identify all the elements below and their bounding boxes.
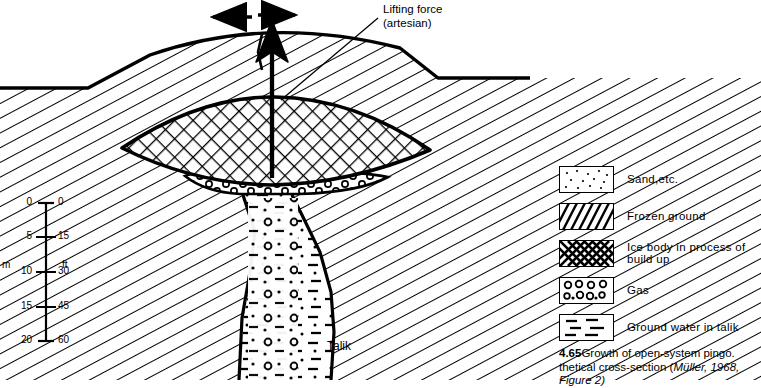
lifting-force-line2: (artesian) — [383, 16, 442, 30]
scale-m-tick-20: 20 — [10, 334, 32, 345]
legend: Sand,etc. Frozen ground — [559, 166, 761, 351]
scale-m-tick-5: 5 — [10, 230, 32, 241]
caption-number: 4.65 — [559, 347, 581, 359]
talik-gas-bubbles — [248, 198, 298, 380]
figure-caption: 4.65Growth of open-system pingo. thetica… — [559, 347, 761, 388]
scale-m-tick-10: 10 — [10, 265, 32, 276]
scale-ft-tick-30: 30 — [58, 265, 82, 276]
caption-source: Müller, 1968, — [673, 361, 739, 373]
scale-m-tick-0: 0 — [10, 196, 32, 207]
legend-label-ice-body: Ice body in process of build up — [627, 241, 761, 265]
diagonal-hatch-swatch — [559, 203, 614, 230]
caption-text-2: thetical cross-section ( — [559, 361, 673, 373]
caption-text-1: Growth of open-system pingo. — [581, 347, 734, 359]
legend-item-ice-body: Ice body in process of build up — [559, 240, 761, 266]
scale-ft-tick-60: 60 — [58, 334, 82, 345]
legend-label-ground-water: Ground water in talik — [627, 321, 739, 333]
legend-label-gas: Gas — [627, 284, 649, 296]
talik-label: Talik — [327, 339, 351, 353]
sand-dots-swatch — [559, 166, 614, 193]
lifting-force-label: Lifting force (artesian) — [383, 2, 442, 30]
legend-item-gas: Gas — [559, 277, 761, 303]
scale-ft-tick-0: 0 — [58, 196, 82, 207]
legend-label-frozen-ground: Frozen ground — [627, 210, 706, 222]
legend-label-sand: Sand,etc. — [627, 173, 678, 185]
legend-item-frozen-ground: Frozen ground — [559, 203, 761, 229]
scale-ft-tick-15: 15 — [58, 230, 82, 241]
dashes-swatch — [559, 314, 614, 341]
cross-hatch-swatch — [559, 240, 614, 267]
scale-m-tick-15: 15 — [10, 300, 32, 311]
circles-swatch — [559, 277, 614, 304]
legend-item-ground-water: Ground water in talik — [559, 314, 761, 340]
lifting-force-line1: Lifting force — [383, 2, 442, 16]
scale-ft-tick-45: 45 — [58, 300, 82, 311]
legend-item-sand: Sand,etc. — [559, 166, 761, 192]
caption-text-3: Figure 2) — [559, 374, 605, 386]
